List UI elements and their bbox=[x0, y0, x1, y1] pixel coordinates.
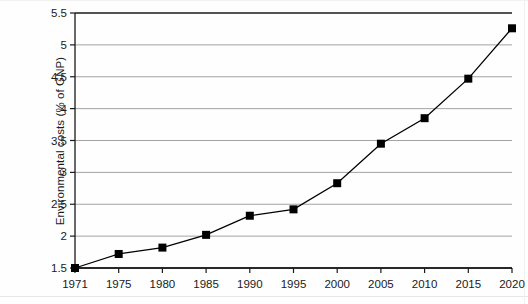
y-axis-tick-label: 2.5 bbox=[51, 198, 67, 210]
y-axis-tick-label: 3.5 bbox=[51, 135, 67, 147]
y-axis-tick-label: 1.5 bbox=[51, 262, 67, 274]
data-point-marker bbox=[158, 244, 166, 252]
y-axis-tick-label: 5 bbox=[61, 39, 67, 51]
y-axis-tick-label: 4 bbox=[61, 103, 68, 115]
x-axis-tick-label: 1985 bbox=[193, 278, 219, 290]
x-axis-tick-label: 2015 bbox=[456, 278, 482, 290]
x-axis-tick-label: 2005 bbox=[368, 278, 394, 290]
data-point-marker bbox=[202, 231, 210, 239]
data-point-marker bbox=[246, 212, 254, 220]
data-point-marker bbox=[71, 264, 79, 272]
x-axis-tick-label: 2010 bbox=[412, 278, 438, 290]
y-axis-tick-label: 4.5 bbox=[51, 71, 67, 83]
x-axis-tick-label: 1975 bbox=[106, 278, 132, 290]
x-axis-tick-label: 1980 bbox=[150, 278, 176, 290]
data-point-marker bbox=[421, 114, 429, 122]
data-point-marker bbox=[290, 205, 298, 213]
y-axis-tick-label: 5.5 bbox=[51, 7, 67, 19]
data-markers bbox=[71, 24, 516, 272]
x-axis-tick-label: 1971 bbox=[62, 278, 88, 290]
y-axis-tick-label: 2 bbox=[61, 230, 67, 242]
gridlines bbox=[75, 13, 512, 268]
data-point-marker bbox=[377, 140, 385, 148]
data-point-marker bbox=[115, 250, 123, 258]
x-axis-tick-label: 2000 bbox=[324, 278, 350, 290]
data-point-marker bbox=[464, 75, 472, 83]
data-line bbox=[75, 28, 512, 268]
y-axis-tick-label: 3 bbox=[61, 166, 67, 178]
line-chart: 1.522.533.544.555.5 19711975198019851990… bbox=[0, 0, 528, 304]
data-point-marker bbox=[508, 24, 516, 32]
y-axis-ticks bbox=[70, 13, 75, 268]
x-axis-tick-label: 1990 bbox=[237, 278, 263, 290]
x-axis-tick-label: 1995 bbox=[281, 278, 307, 290]
chart-page: Environmental costs (% of GNP) 1.522.533… bbox=[0, 0, 528, 304]
x-axis-tick-label: 2020 bbox=[499, 278, 525, 290]
x-axis-tick-labels: 1971197519801985199019952000200520102015… bbox=[62, 278, 525, 290]
data-point-marker bbox=[333, 179, 341, 187]
x-axis-ticks bbox=[75, 268, 512, 273]
y-axis-tick-labels: 1.522.533.544.555.5 bbox=[51, 7, 68, 274]
